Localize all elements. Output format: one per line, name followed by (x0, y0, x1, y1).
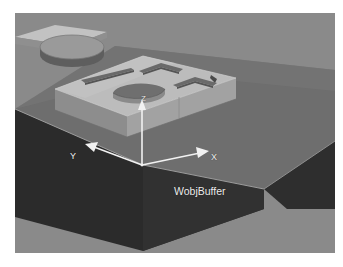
axis-x-label: X (211, 152, 217, 162)
frame-origin-point (141, 164, 144, 167)
workobject-frame-label: WobjBuffer (174, 185, 226, 197)
scene-geometry (15, 13, 335, 253)
axis-y-label: Y (70, 151, 76, 161)
figure-container: X Y Z WobjBuffer (0, 0, 343, 267)
3d-scene: X Y Z WobjBuffer (15, 13, 335, 253)
axis-z-label: Z (141, 94, 146, 103)
